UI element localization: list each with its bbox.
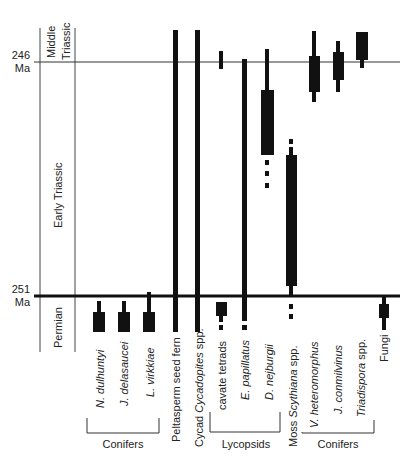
range-chart: 246 Ma 251 Ma Middle Triassic Early Tria… xyxy=(0,0,407,476)
group-conifers-2: Conifers xyxy=(318,438,359,450)
tick-251-unit: Ma xyxy=(15,296,31,308)
group-conifers-1: Conifers xyxy=(103,438,144,450)
bar-d-nejburgii xyxy=(261,49,274,188)
bar-peltasperm xyxy=(173,30,178,332)
tick-246: 246 xyxy=(12,49,30,61)
label-triadispora: Triadispora spp. xyxy=(355,339,367,417)
group-lycopsids: Lycopsids xyxy=(222,438,271,450)
label-cycad: Cycad Cycadopites spp. xyxy=(193,328,205,447)
bar-cavate-tetrads xyxy=(216,51,227,330)
label-peltasperm: Peltasperm seed fern xyxy=(170,337,182,442)
label-n-dulhuntyi: N. dulhuntyi xyxy=(94,349,106,408)
label-v-heteromorphus: V. heteromorphus xyxy=(308,341,320,428)
bar-cycad xyxy=(195,30,200,332)
bars-triassic-conifers xyxy=(309,31,368,102)
group-brackets xyxy=(87,412,374,433)
period-middle: Middle xyxy=(45,26,57,58)
label-d-nejburgii: D. nejburgii xyxy=(263,344,275,400)
label-j-delasaucei: J. delasaucei xyxy=(118,341,130,407)
label-fungi: Fungi xyxy=(378,334,390,362)
taxon-labels: N. dulhuntyi J. delasaucei L. virkkiae P… xyxy=(94,328,390,447)
bar-scythiana xyxy=(286,139,297,319)
bar-e-papillatus xyxy=(242,59,247,330)
label-l-virkkiae: L. virkkiae xyxy=(144,347,156,397)
bar-fungi xyxy=(379,296,389,330)
tick-251: 251 xyxy=(12,283,30,295)
label-moss-scythiana: Moss Scythiana spp. xyxy=(287,345,299,447)
label-e-papillatus: E. papillatus xyxy=(239,340,251,400)
bars-permian-conifers xyxy=(93,292,155,332)
label-j-conmilvinus: J. conmilvinus xyxy=(332,344,344,415)
tick-246-unit: Ma xyxy=(15,62,31,74)
period-triassic: Triassic xyxy=(60,22,72,60)
label-cavate-tetrads: cavate tetrads xyxy=(216,340,228,410)
period-early-triassic: Early Triassic xyxy=(52,162,64,228)
period-permian: Permian xyxy=(52,307,64,348)
